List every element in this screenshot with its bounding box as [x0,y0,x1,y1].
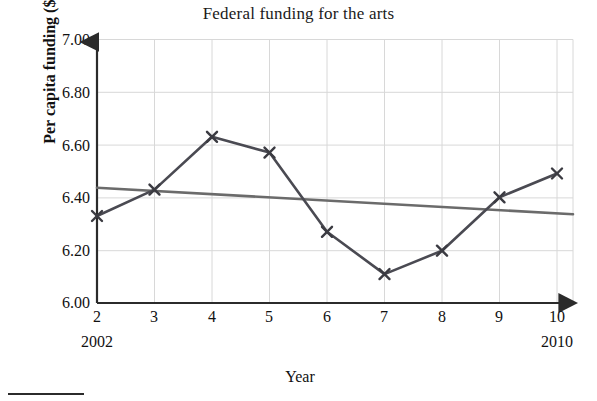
chart-figure: Federal funding for the arts Per capita … [0,0,597,401]
x-tick-label-2: 2 [77,308,117,326]
x-axis-start-year-label: 2002 [67,333,127,351]
x-tick-label-9: 9 [479,308,519,326]
horizontal-gridlines [97,40,573,251]
x-tick-label-4: 4 [192,308,232,326]
x-axis-end-year-label: 2010 [527,333,587,351]
vertical-gridlines [155,40,574,304]
x-tick-label-8: 8 [422,308,462,326]
x-tick-label-5: 5 [249,308,289,326]
x-axis-title: Year [150,368,450,386]
x-tick-label-6: 6 [307,308,347,326]
footer-rule [8,393,84,395]
x-tick-label-10: 10 [537,308,577,326]
axis-lines [97,42,576,303]
x-tick-label-7: 7 [364,308,404,326]
x-tick-label-3: 3 [134,308,174,326]
